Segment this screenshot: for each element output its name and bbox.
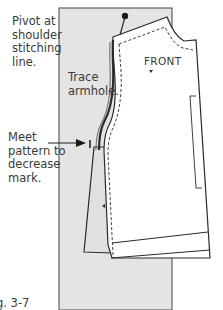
pattern-figure: Pivot at shoulder stitching line. Trace … [0,0,223,310]
pivot-instruction: Pivot at shoulder stitching line. [12,15,62,69]
meet-instruction: Meet pattern to decrease mark. [8,131,65,185]
trace-instruction: Trace armhole. [68,71,119,98]
front-pattern-piece [104,17,210,258]
pin-icon [122,13,128,19]
figure-caption: g. 3-7 [0,296,29,310]
front-label: FRONT [144,55,181,67]
